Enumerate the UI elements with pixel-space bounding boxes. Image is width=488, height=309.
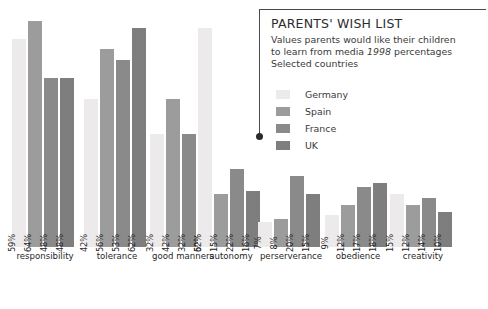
bar-value-label: 42% <box>159 234 173 252</box>
bar-group-tolerance: 42%56%53%62%tolerance <box>84 0 150 247</box>
category-label: obedience <box>325 251 391 261</box>
category-label: creativity <box>390 251 456 261</box>
bar-value-label: 8% <box>267 237 281 250</box>
bar-uk-responsibility[interactable]: 48% <box>60 78 74 247</box>
bar-germany-autonomy[interactable]: 62% <box>198 28 212 247</box>
bar-spain-responsibility[interactable]: 64% <box>28 21 42 247</box>
bar-value-label: 62% <box>191 234 205 252</box>
bar-value-label: 15% <box>299 234 313 252</box>
category-label: perserverance <box>258 251 324 261</box>
bar-germany-responsibility[interactable]: 59% <box>12 39 26 247</box>
bar-value-label: 10% <box>431 234 445 252</box>
category-label: autonomy <box>198 251 264 261</box>
bar-spain-good-manners[interactable]: 42% <box>166 99 180 247</box>
category-label: tolerance <box>84 251 150 261</box>
bar-value-label: 14% <box>415 234 429 252</box>
bar-value-label: 7% <box>251 237 265 250</box>
bar-value-label: 15% <box>207 234 221 252</box>
bar-value-label: 64% <box>21 234 35 252</box>
chart-page: PARENTS' WISH LIST Values parents would … <box>0 0 488 309</box>
bar-spain-tolerance[interactable]: 56% <box>100 49 114 247</box>
category-label: responsibility <box>12 251 78 261</box>
bar-value-label: 42% <box>77 234 91 252</box>
bar-value-label: 12% <box>399 234 413 252</box>
bar-value-label: 48% <box>53 234 67 252</box>
bar-uk-tolerance[interactable]: 62% <box>132 28 146 247</box>
bar-group-bars: 59%64%48%48% <box>12 0 74 247</box>
bar-value-label: 9% <box>318 237 332 250</box>
bar-value-label: 22% <box>223 234 237 252</box>
bar-value-label: 32% <box>143 234 157 252</box>
bar-value-label: 18% <box>366 234 380 252</box>
bar-group-responsibility: 59%64%48%48%responsibility <box>12 0 78 247</box>
bar-france-good-manners[interactable]: 32% <box>182 134 196 247</box>
bar-group-bars: 9%12%17%18% <box>325 0 387 247</box>
bar-value-label: 32% <box>175 234 189 252</box>
bar-group-creativity: 15%12%14%10%creativity <box>390 0 456 247</box>
bar-group-bars: 15%12%14%10% <box>390 0 452 247</box>
bar-value-label: 12% <box>334 234 348 252</box>
bar-group-bars: 7%8%20%15% <box>258 0 320 247</box>
bar-value-label: 17% <box>350 234 364 252</box>
bar-france-tolerance[interactable]: 53% <box>116 60 130 247</box>
bar-value-label: 48% <box>37 234 51 252</box>
bar-value-label: 53% <box>109 234 123 252</box>
bar-value-label: 62% <box>125 234 139 252</box>
bar-group-autonomy: 62%15%22%16%autonomy <box>198 0 264 247</box>
bar-value-label: 15% <box>383 234 397 252</box>
bar-germany-good-manners[interactable]: 32% <box>150 134 164 247</box>
bar-group-bars: 62%15%22%16% <box>198 0 260 247</box>
chart-plot-area: 59%64%48%48%responsibility42%56%53%62%to… <box>0 0 470 278</box>
bar-group-bars: 42%56%53%62% <box>84 0 146 247</box>
bar-value-label: 59% <box>5 234 19 252</box>
bar-group-perserverance: 7%8%20%15%perserverance <box>258 0 324 247</box>
bar-value-label: 56% <box>93 234 107 252</box>
bar-uk-creativity[interactable]: 10% <box>438 212 452 247</box>
bar-value-label: 20% <box>283 234 297 252</box>
bar-germany-tolerance[interactable]: 42% <box>84 99 98 247</box>
bar-france-responsibility[interactable]: 48% <box>44 78 58 247</box>
bar-group-obedience: 9%12%17%18%obedience <box>325 0 391 247</box>
